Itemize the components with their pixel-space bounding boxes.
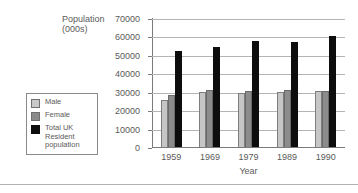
bar bbox=[245, 91, 252, 147]
bar-group bbox=[238, 18, 259, 147]
y-axis-tick-label: 60000 bbox=[115, 33, 140, 42]
chart-legend: MaleFemaleTotal UK Resident population bbox=[26, 93, 98, 155]
x-axis-tick-label: 1969 bbox=[200, 152, 220, 162]
y-axis-tick bbox=[148, 19, 152, 20]
y-axis-tick-label: 50000 bbox=[115, 51, 140, 60]
chart-page: Population (000s) 0100002000030000400005… bbox=[0, 0, 358, 193]
plot-area bbox=[152, 19, 345, 148]
legend-label: Female bbox=[45, 111, 70, 120]
y-axis-tick-label: 40000 bbox=[115, 70, 140, 79]
bar bbox=[315, 91, 322, 147]
x-axis-tick-label: 1989 bbox=[277, 152, 297, 162]
y-axis-tick bbox=[148, 130, 152, 131]
y-axis-tick-label: 10000 bbox=[115, 125, 140, 134]
y-axis-tick bbox=[148, 37, 152, 38]
x-axis-tick-label: 1979 bbox=[238, 152, 258, 162]
y-axis-tick bbox=[148, 74, 152, 75]
bar bbox=[238, 93, 245, 147]
legend-item: Female bbox=[31, 111, 94, 121]
y-axis-tick bbox=[148, 148, 152, 149]
x-axis-line bbox=[152, 147, 345, 148]
x-axis-title: Year bbox=[152, 166, 345, 176]
plot-canvas bbox=[152, 19, 345, 148]
bar bbox=[284, 90, 291, 147]
x-axis-tick-label: 1959 bbox=[161, 152, 181, 162]
bar-group bbox=[161, 18, 182, 147]
legend-label: Total UK Resident population bbox=[45, 124, 80, 150]
y-axis-tick-label: 70000 bbox=[115, 15, 140, 24]
bar bbox=[161, 100, 168, 147]
bar bbox=[252, 41, 259, 147]
legend-swatch-male bbox=[31, 99, 40, 108]
bar bbox=[168, 95, 175, 147]
y-axis-tick bbox=[148, 111, 152, 112]
bar-group bbox=[277, 18, 298, 147]
legend-swatch-total bbox=[31, 125, 40, 134]
bar bbox=[322, 91, 329, 147]
bar bbox=[329, 36, 336, 147]
bar bbox=[206, 90, 213, 147]
bar bbox=[291, 42, 298, 147]
legend-item: Total UK Resident population bbox=[31, 124, 94, 150]
bar-group bbox=[199, 18, 220, 147]
legend-item: Male bbox=[31, 98, 94, 108]
footer-divider bbox=[0, 184, 358, 185]
y-axis-tick bbox=[148, 56, 152, 57]
y-axis-tick-label: 0 bbox=[135, 144, 140, 153]
bar bbox=[213, 47, 220, 147]
y-axis-tick-label: 30000 bbox=[115, 88, 140, 97]
bar-group bbox=[315, 18, 336, 147]
x-axis-tick-label: 1990 bbox=[316, 152, 336, 162]
legend-swatch-female bbox=[31, 112, 40, 121]
y-axis-tick-label: 20000 bbox=[115, 107, 140, 116]
x-axis-tick-labels: 19591969197919891990 bbox=[152, 152, 345, 164]
bar bbox=[277, 92, 284, 147]
bar bbox=[199, 92, 206, 147]
legend-label: Male bbox=[45, 98, 61, 107]
bar bbox=[175, 51, 182, 147]
y-axis-tick bbox=[148, 93, 152, 94]
